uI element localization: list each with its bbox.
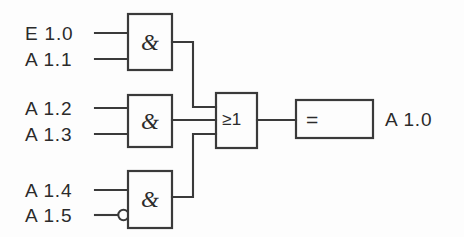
input-label-a15: A 1.5 [25, 206, 72, 225]
input-label-a12: A 1.2 [25, 99, 72, 118]
input-label-a14: A 1.4 [25, 181, 72, 200]
input-label-a13: A 1.3 [25, 125, 72, 144]
output-label-a10: A 1.0 [385, 110, 432, 129]
and-gate-3-symbol: & [141, 188, 159, 211]
and-gate-2-symbol: & [141, 110, 159, 133]
or-gate-symbol: ≥1 [222, 111, 241, 128]
wire-and3-to-or [172, 134, 216, 197]
input-label-e10: E 1.0 [25, 24, 73, 43]
input-label-a11: A 1.1 [25, 50, 72, 69]
output-gate-symbol: = [306, 109, 318, 130]
and-gate-1-symbol: & [141, 31, 159, 54]
logic-diagram-canvas: E 1.0 A 1.1 A 1.2 A 1.3 A 1.4 A 1.5 & & … [0, 0, 464, 237]
wire-and1-to-or [172, 42, 216, 107]
